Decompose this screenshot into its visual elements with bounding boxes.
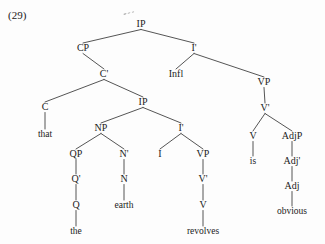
label-layer: IPCPI'InflVPC'CthatIPNPI'QPN'Q'NQearthth… (38, 18, 307, 236)
tree-branch (176, 54, 194, 70)
node-vp-main: VP (258, 76, 271, 87)
node-i-bar-emb: I' (178, 122, 183, 133)
scan-speck-icon (132, 11, 135, 13)
tree-branch (101, 134, 124, 150)
node-i-emb: I (158, 148, 161, 159)
tree-branch (181, 134, 203, 150)
node-n: N (120, 173, 127, 184)
tree-branch (143, 108, 181, 124)
node-v-emb: V (199, 199, 207, 210)
leaf-is: is (250, 156, 257, 166)
leaf-obvious: obvious (277, 206, 307, 216)
node-q: Q (72, 199, 80, 210)
tree-branch (264, 88, 265, 104)
node-c-bar: C' (100, 68, 109, 79)
syntax-tree-svg: IPCPI'InflVPC'CthatIPNPI'QPN'Q'NQearthth… (0, 0, 325, 244)
tree-branch (83, 54, 104, 70)
example-number: (29) (8, 9, 27, 22)
node-infl: Infl (169, 68, 184, 79)
node-v-bar-main: V' (260, 102, 269, 113)
node-vp-emb: VP (197, 148, 210, 159)
node-ip-root: IP (137, 18, 146, 29)
leaf-that: that (38, 129, 53, 139)
node-np: NP (95, 122, 108, 133)
node-adj: Adj (285, 180, 300, 191)
node-ip-embedded: IP (139, 96, 148, 107)
node-adj-bar: Adj' (284, 155, 301, 166)
tree-branch (76, 134, 101, 150)
figure-canvas: IPCPI'InflVPC'CthatIPNPI'QPN'Q'NQearthth… (0, 0, 325, 244)
node-i-bar-top: I' (191, 42, 196, 53)
node-v-main: V (249, 130, 257, 141)
tree-branch (104, 80, 143, 98)
tree-branch (265, 114, 292, 132)
tree-branch (141, 30, 194, 44)
tree-branch (101, 108, 143, 124)
node-cp: CP (77, 42, 90, 53)
scan-artifact-layer (123, 11, 134, 15)
scan-speck-icon (127, 12, 130, 14)
tree-branch (194, 54, 264, 78)
node-adjp: AdjP (282, 130, 303, 141)
leaf-earth: earth (115, 200, 134, 210)
node-c: C (42, 101, 49, 112)
node-q-bar: Q' (71, 173, 80, 184)
leaf-the: the (70, 226, 82, 236)
tree-branch (45, 80, 104, 103)
tree-branch (160, 134, 181, 150)
branch-layer (45, 30, 292, 227)
node-n-bar: N' (119, 148, 128, 159)
scan-speck-icon (123, 13, 126, 15)
node-qp: QP (70, 148, 83, 159)
tree-branch (83, 30, 141, 44)
node-v-bar-emb: V' (198, 173, 207, 184)
tree-branch (253, 114, 265, 132)
leaf-revolves: revolves (187, 226, 219, 236)
